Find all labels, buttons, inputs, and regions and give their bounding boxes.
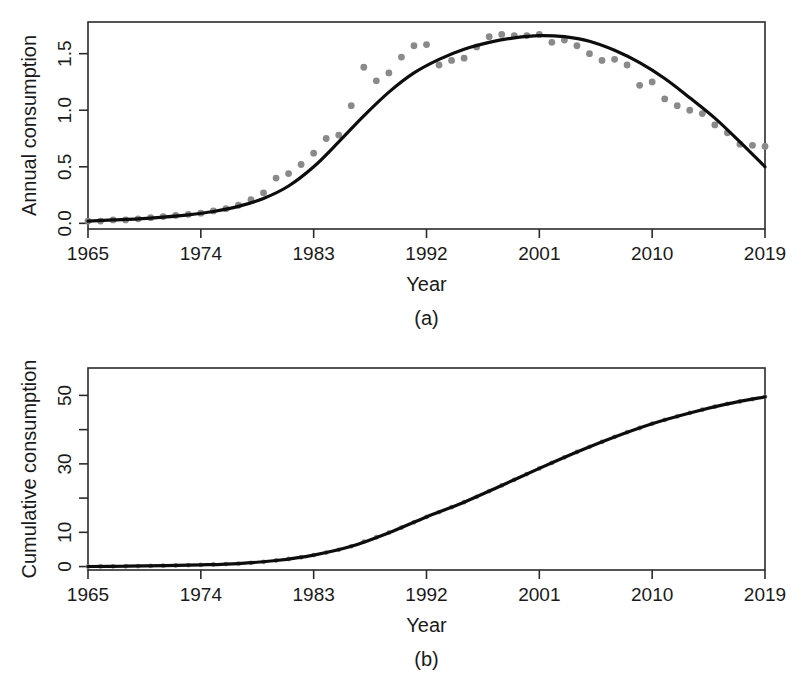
y-axis-title: Cumulative consumption: [18, 360, 40, 579]
y-tick-label: 0.5: [54, 154, 75, 180]
x-tick-label: 2010: [631, 243, 673, 264]
y-tick-label: 1.5: [54, 40, 75, 66]
data-point: [624, 62, 631, 69]
panel-caption: (a): [414, 307, 438, 329]
x-tick-label: 1983: [293, 243, 335, 264]
x-tick-label: 1974: [180, 243, 223, 264]
x-tick-label: 1965: [67, 243, 109, 264]
panel-a-plot: 19651974198319922001201020190.00.51.01.5…: [0, 0, 806, 350]
plot-frame: [88, 368, 765, 570]
fitted-curve: [88, 397, 765, 567]
data-point: [749, 142, 756, 149]
data-point: [649, 79, 656, 86]
panel-a: 19651974198319922001201020190.00.51.01.5…: [0, 0, 806, 350]
x-tick-label: 2001: [518, 243, 560, 264]
data-point: [323, 135, 330, 142]
x-tick-label: 1992: [405, 243, 447, 264]
data-point: [411, 42, 418, 49]
data-point: [574, 42, 581, 49]
data-point: [285, 170, 292, 177]
data-point: [674, 102, 681, 109]
data-point: [423, 41, 430, 48]
figure-container: 19651974198319922001201020190.00.51.01.5…: [0, 0, 806, 700]
data-points-group: [85, 31, 769, 224]
data-point: [448, 57, 455, 64]
data-point: [711, 122, 718, 129]
data-point: [498, 31, 505, 38]
y-tick-label: 30: [54, 453, 75, 474]
data-point: [762, 143, 769, 150]
data-point: [398, 54, 405, 61]
data-point: [373, 77, 380, 84]
data-point: [273, 175, 280, 182]
data-point: [348, 102, 355, 109]
plot-frame: [88, 22, 765, 229]
data-point: [385, 70, 392, 77]
panel-b-plot: 19651974198319922001201020190103050Cumul…: [0, 340, 806, 700]
x-tick-label: 2001: [518, 584, 560, 605]
x-axis-title: Year: [406, 273, 447, 295]
data-point: [298, 161, 305, 168]
x-tick-label: 1992: [405, 584, 447, 605]
data-point: [486, 33, 493, 40]
x-tick-label: 2010: [631, 584, 673, 605]
x-tick-label: 1983: [293, 584, 335, 605]
data-point: [548, 39, 555, 46]
data-point: [461, 55, 468, 62]
y-tick-label: 1.0: [54, 97, 75, 123]
data-point: [436, 62, 443, 69]
data-point: [586, 50, 593, 57]
data-point: [611, 56, 618, 63]
data-point: [686, 107, 693, 114]
fitted-curve: [88, 36, 765, 222]
x-tick-label: 2019: [744, 584, 786, 605]
y-tick-label: 0: [54, 561, 75, 572]
panel-caption: (b): [414, 648, 438, 670]
data-point: [260, 189, 267, 196]
data-point: [599, 57, 606, 64]
data-point: [661, 96, 668, 103]
panel-b: 19651974198319922001201020190103050Cumul…: [0, 340, 806, 700]
y-tick-label: 0.0: [54, 210, 75, 236]
x-tick-label: 2019: [744, 243, 786, 264]
y-tick-label: 10: [54, 522, 75, 543]
x-tick-label: 1974: [180, 584, 223, 605]
data-point: [360, 64, 367, 71]
y-tick-label: 50: [54, 385, 75, 406]
x-tick-label: 1965: [67, 584, 109, 605]
y-axis-title: Annual consumption: [18, 35, 40, 216]
data-point: [636, 82, 643, 89]
data-point: [310, 150, 317, 157]
x-axis-title: Year: [406, 614, 447, 636]
